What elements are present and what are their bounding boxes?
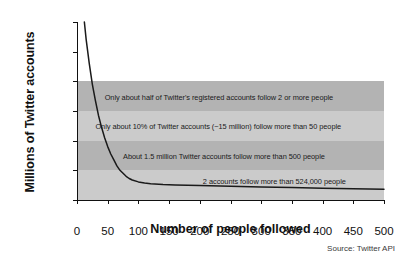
x-tick-mark — [200, 200, 201, 204]
y-tick-mark — [73, 141, 77, 142]
x-tick-mark — [77, 200, 78, 204]
x-tick-mark — [261, 200, 262, 204]
y-axis-title: Millions of Twitter accounts — [23, 22, 37, 202]
data-curve — [77, 22, 384, 200]
x-tick-mark — [169, 200, 170, 204]
y-tick-mark — [73, 22, 77, 23]
annotation-3: 2 accounts follow more than 524,000 peop… — [203, 177, 346, 186]
x-tick-mark — [292, 200, 293, 204]
y-tick-mark — [73, 170, 77, 171]
y-tick-mark — [73, 81, 77, 82]
y-tick-mark — [73, 111, 77, 112]
y-axis-line — [77, 22, 78, 200]
x-tick-mark — [231, 200, 232, 204]
chart-figure: Millions of Twitter accounts Number of p… — [0, 0, 403, 273]
x-tick-mark — [323, 200, 324, 204]
plot-area: Only about half of Twitter's registered … — [77, 22, 384, 200]
source-note: Source: Twitter API — [327, 244, 395, 253]
x-tick-mark — [353, 200, 354, 204]
x-tick-mark — [108, 200, 109, 204]
annotation-1: Only about 10% of Twitter accounts (~15 … — [95, 122, 341, 131]
x-tick-label: 500 — [354, 225, 403, 237]
x-tick-mark — [138, 200, 139, 204]
y-tick-mark — [73, 52, 77, 53]
x-tick-mark — [384, 200, 385, 204]
annotation-2: About 1.5 million Twitter accounts follo… — [123, 152, 325, 161]
annotation-0: Only about half of Twitter's registered … — [105, 93, 334, 102]
